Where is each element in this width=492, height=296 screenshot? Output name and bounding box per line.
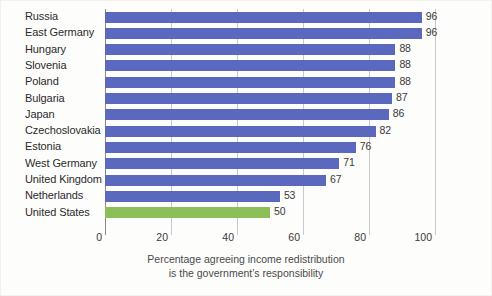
bar-row[interactable]: 96 (105, 25, 435, 41)
bar[interactable] (105, 207, 270, 218)
bar[interactable] (105, 93, 392, 104)
category-label: Bulgaria (1, 91, 99, 107)
bar[interactable] (105, 12, 422, 23)
category-label: Poland (1, 74, 99, 90)
bar-value-label: 76 (360, 140, 371, 152)
bar-row[interactable]: 96 (105, 9, 435, 25)
bar-value-label: 88 (399, 42, 410, 54)
bar-row[interactable]: 82 (105, 123, 435, 139)
category-label: United Kingdom (1, 172, 99, 188)
bar-value-label: 86 (393, 107, 404, 119)
category-label: Hungary (1, 42, 99, 58)
category-label: Russia (1, 9, 99, 25)
bar[interactable] (105, 191, 280, 202)
bar-row[interactable]: 67 (105, 172, 435, 188)
bar-value-label: 67 (330, 173, 341, 185)
bar-value-label: 88 (399, 58, 410, 70)
bar-value-label: 50 (274, 205, 285, 217)
x-axis-tick-labels: 020406080100 (105, 231, 435, 247)
category-label: United States (1, 205, 99, 221)
bar-row[interactable]: 88 (105, 58, 435, 74)
bar[interactable] (105, 142, 356, 153)
plot-area: 96968888888786827671675350 (105, 9, 435, 231)
x-tick-label-80: 80 (354, 231, 369, 243)
bar-row[interactable]: 50 (105, 205, 435, 221)
bar[interactable] (105, 126, 376, 137)
bar-value-label: 71 (343, 156, 354, 168)
bar-value-label: 96 (426, 10, 437, 22)
bar-chart-figure: RussiaEast GermanyHungarySloveniaPolandB… (0, 0, 492, 296)
bar-rows: 96968888888786827671675350 (105, 9, 435, 231)
bar[interactable] (105, 44, 395, 55)
bar-row[interactable]: 88 (105, 74, 435, 90)
bar-row[interactable]: 53 (105, 188, 435, 204)
category-label: East Germany (1, 25, 99, 41)
bar-row[interactable]: 76 (105, 139, 435, 155)
bar-row[interactable]: 88 (105, 42, 435, 58)
bar[interactable] (105, 158, 339, 169)
gridline-100 (435, 9, 436, 235)
bar-row[interactable]: 71 (105, 156, 435, 172)
category-label: Japan (1, 107, 99, 123)
category-label: Estonia (1, 139, 99, 155)
bar-row[interactable]: 87 (105, 91, 435, 107)
caption-line-1: Percentage agreeing income redistributio… (1, 253, 491, 267)
bar[interactable] (105, 77, 395, 88)
category-label: West Germany (1, 156, 99, 172)
bar-value-label: 53 (284, 189, 295, 201)
x-tick-label-20: 20 (156, 231, 171, 243)
category-label: Netherlands (1, 188, 99, 204)
axis-caption: Percentage agreeing income redistributio… (1, 253, 491, 280)
bar[interactable] (105, 60, 395, 71)
category-label: Czechoslovakia (1, 123, 99, 139)
bar-value-label: 87 (396, 91, 407, 103)
bar[interactable] (105, 175, 326, 186)
caption-line-2: is the government’s responsibility (1, 267, 491, 281)
category-label: Slovenia (1, 58, 99, 74)
bar[interactable] (105, 28, 422, 39)
x-tick-label-100: 100 (414, 231, 435, 243)
bar-value-label: 82 (380, 124, 391, 136)
x-tick-label-0: 0 (96, 231, 105, 243)
x-tick-label-60: 60 (288, 231, 303, 243)
bar-row[interactable]: 86 (105, 107, 435, 123)
bar[interactable] (105, 109, 389, 120)
category-axis-labels: RussiaEast GermanyHungarySloveniaPolandB… (1, 9, 99, 231)
bar-value-label: 96 (426, 26, 437, 38)
x-tick-label-40: 40 (222, 231, 237, 243)
bar-value-label: 88 (399, 75, 410, 87)
